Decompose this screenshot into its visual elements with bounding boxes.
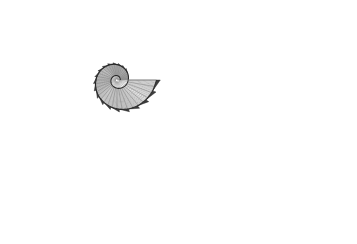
spiral-svg [0,0,357,244]
spiral-shell-diagram [0,0,357,244]
shell-tooth [119,109,129,112]
